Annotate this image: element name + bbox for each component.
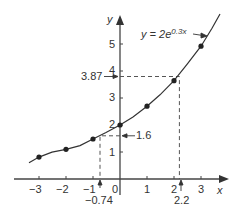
x-tick-label: 0 [112,184,118,195]
y-tick-label: 5 [109,39,115,50]
y-tick-label: 2 [109,119,115,130]
annotation-arrows [98,33,207,191]
x-axis-arrow-icon [219,175,229,183]
y-axis-label: y [107,14,113,25]
y-tick-label: 3 [109,92,115,103]
x-tick-label: 3 [198,184,204,195]
annotation-2-2: 2.2 [174,195,189,206]
annotation-1-6: 1.6 [136,130,151,141]
y-axis-arrow-icon [116,15,124,25]
x-tick-label: 1 [144,184,150,195]
y-tick-label: 4 [109,65,115,76]
annotation-3-87: 3.87 [81,71,102,82]
x-axis [14,175,229,183]
annotation-neg-0-74: −0.74 [85,195,113,206]
y-axis [116,15,124,195]
x-axis-label: x [217,185,223,196]
equation-label: y = 2e0.3x [141,28,186,40]
curve [29,14,220,163]
y-tick-label: 1 [109,147,115,158]
x-tick-label: −2 [56,184,69,195]
x-tick-label: −3 [29,184,42,195]
